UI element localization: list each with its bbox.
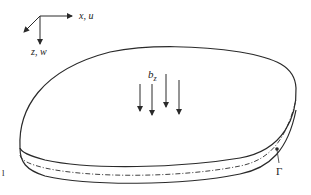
- z-axis-label: z, w: [30, 46, 47, 57]
- left-edge-mark: l: [2, 168, 5, 178]
- x-axis-label: x, u: [78, 10, 93, 21]
- load-label: bz: [148, 68, 158, 83]
- plate-diagram: x, u z, w bz Γ l: [0, 0, 311, 195]
- mid-plane-line: [20, 100, 296, 175]
- coordinate-axes: x, u z, w: [24, 10, 93, 57]
- plate-bottom-edge: [20, 110, 296, 183]
- boundary-label: Γ: [276, 165, 282, 177]
- plate-top-surface: [20, 47, 296, 167]
- body-force-arrows: bz: [140, 68, 179, 115]
- y-axis-arrow: [24, 16, 40, 32]
